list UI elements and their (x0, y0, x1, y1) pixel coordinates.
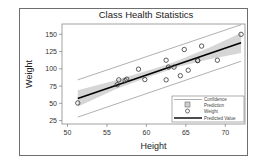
y-axis-label: Weight (24, 46, 34, 74)
y-tick-label: 150 (45, 31, 57, 38)
x-axis-label: Height (62, 141, 245, 151)
legend-prediction-swatch (185, 102, 190, 107)
y-tick-label: 50 (49, 100, 57, 107)
x-tick-label: 60 (143, 129, 151, 136)
legend-label: Weight (204, 109, 219, 114)
y-tick-label: 100 (45, 65, 57, 72)
x-tick-label: 65 (182, 129, 190, 136)
legend-label: Predicted Value (204, 116, 236, 121)
x-tick-label: 55 (103, 129, 111, 136)
x-tick-label: 70 (221, 129, 229, 136)
legend-label: Confidence (204, 97, 227, 102)
y-tick-label: 25 (49, 117, 57, 124)
y-tick-label: 125 (45, 48, 57, 55)
y-axis-label-text: Weight (24, 60, 34, 88)
x-tick-label: 50 (64, 129, 72, 136)
legend-label: Prediction (204, 103, 225, 108)
y-tick-label: 75 (49, 83, 57, 90)
